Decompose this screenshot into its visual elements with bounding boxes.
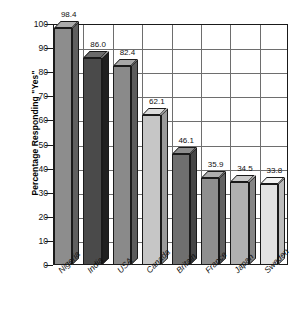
bar	[201, 178, 219, 265]
y-axis-tick-mark	[45, 72, 53, 73]
bar-value-label: 34.5	[232, 164, 257, 173]
bar-front-face	[201, 178, 219, 265]
y-axis-tick-label: 50	[18, 140, 48, 150]
bar-front-face	[54, 28, 72, 265]
y-axis-tick-mark	[45, 48, 53, 49]
bar-value-label: 82.4	[115, 48, 140, 57]
y-axis-tick-label: 70	[18, 91, 48, 101]
bar-side-face	[161, 109, 168, 265]
y-axis-tick-mark	[45, 241, 53, 242]
y-axis-tick-mark	[45, 145, 53, 146]
y-axis-tick-mark	[45, 265, 53, 266]
bar-front-face	[142, 115, 160, 265]
y-axis-tick-mark	[45, 120, 53, 121]
bar-value-label: 33.8	[262, 166, 287, 175]
bar-value-label: 62.1	[144, 97, 169, 106]
bar	[83, 58, 101, 265]
bars-layer: 98.486.082.462.146.135.934.533.8	[53, 24, 288, 265]
bar-value-label: 35.9	[203, 160, 228, 169]
y-axis-tick-mark	[45, 96, 53, 97]
y-axis-tick-label: 0	[18, 260, 48, 270]
bar-side-face	[249, 175, 256, 265]
bar-value-label: 98.4	[56, 10, 81, 19]
x-axis-category-labels: NigeriaIndiaUSACanadaBritainFranceJapanS…	[53, 268, 301, 325]
y-axis-tick-label: 80	[18, 67, 48, 77]
y-axis-tick-mark	[45, 169, 53, 170]
y-axis-tick-mark	[45, 24, 53, 25]
bar-chart: Percentage Responding "Yes" 010203040506…	[0, 0, 301, 325]
y-axis-tick-label: 40	[18, 164, 48, 174]
bar-front-face	[172, 154, 190, 265]
y-axis-tick-label: 100	[18, 19, 48, 29]
bar-front-face	[83, 58, 101, 265]
y-axis-tick-label: 90	[18, 43, 48, 53]
y-axis-tick-label: 20	[18, 212, 48, 222]
bar-value-label: 46.1	[174, 136, 199, 145]
bar-side-face	[102, 51, 109, 265]
bar	[142, 115, 160, 265]
y-axis-tick-mark	[45, 193, 53, 194]
bar-side-face	[72, 21, 79, 265]
bar-front-face	[113, 66, 131, 265]
bar-side-face	[131, 60, 138, 265]
bar	[113, 66, 131, 265]
y-axis-tick-label: 60	[18, 115, 48, 125]
bar-side-face	[190, 147, 197, 265]
bar	[172, 154, 190, 265]
y-axis-tick-label: 10	[18, 236, 48, 246]
y-axis-tick-label: 30	[18, 188, 48, 198]
bar	[54, 28, 72, 265]
y-axis-tick-mark	[45, 217, 53, 218]
bar-value-label: 86.0	[85, 40, 110, 49]
